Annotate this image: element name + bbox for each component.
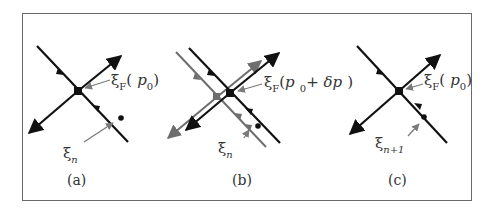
panel-a-diagram: [29, 46, 128, 142]
iterate-pointer: [408, 124, 419, 136]
fixed-point-pointer: [238, 84, 262, 91]
panel-b-iterate-label: ξn: [218, 140, 233, 156]
unstable-manifold-lower: [29, 91, 78, 133]
panel-b-diagram: [168, 48, 280, 147]
panel-a-caption: (a): [67, 173, 86, 187]
unstable-manifold-lower: [186, 93, 230, 130]
panel-b-fixed-point-label: ξF(p 0+ δp ): [264, 74, 353, 90]
panel-b-caption: (b): [232, 173, 252, 187]
panel-a-iterate-label: ξn: [63, 145, 78, 161]
panel-c-fixed-point-label: ξF( p0): [424, 72, 472, 88]
panel-a-fixed-point-label: ξF( p0): [111, 72, 159, 88]
iterate-pointer: [84, 123, 113, 142]
iterate-point: [421, 114, 427, 120]
shifted-fixed-point: [213, 93, 220, 100]
panel-c-diagram: [350, 46, 447, 143]
fixed-point: [74, 87, 82, 95]
unstable-manifold-lower: [350, 91, 399, 134]
manifold-figure: ξF( p0) ξn (a) ξF(p 0+ δp ) ξn (b) ξF( p…: [0, 0, 496, 216]
shifted-unstable-upper: [217, 61, 261, 97]
iterate-point: [255, 123, 261, 129]
iterate-point: [118, 115, 124, 121]
fixed-point-pointer: [406, 84, 423, 89]
fixed-point: [226, 89, 234, 97]
panel-c-caption: (c): [388, 173, 407, 187]
fixed-point: [395, 87, 403, 95]
shifted-unstable-lower: [168, 97, 217, 138]
panel-c-iterate-label: ξn+1: [375, 135, 404, 151]
iterate-pointer: [244, 130, 249, 138]
